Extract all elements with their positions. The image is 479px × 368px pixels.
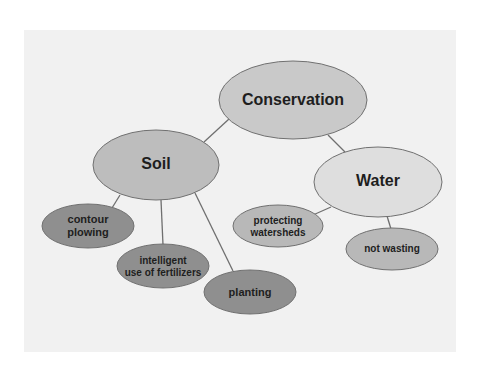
- label-fertilizers-line2: use of fertilizers: [125, 266, 202, 278]
- edge-soil-fertilizers: [161, 200, 163, 245]
- label-watersheds-line2: watersheds: [250, 226, 305, 238]
- label-water: Water: [356, 172, 400, 190]
- label-contour-plowing-line2: plowing: [67, 226, 109, 239]
- label-fertilizers: intelligent use of fertilizers: [125, 255, 202, 278]
- label-contour-plowing-line1: contour: [67, 213, 109, 226]
- label-planting: planting: [229, 286, 272, 299]
- label-conservation: Conservation: [242, 91, 344, 109]
- edge-water-notwasting: [387, 216, 391, 229]
- edge-conservation-soil: [204, 119, 229, 142]
- label-fertilizers-line1: intelligent: [125, 255, 202, 267]
- edge-water-watersheds: [313, 207, 331, 215]
- label-soil: Soil: [141, 155, 170, 173]
- edge-conservation-water: [328, 135, 345, 152]
- concept-map: [0, 0, 479, 368]
- label-contour-plowing: contour plowing: [67, 213, 109, 238]
- edge-soil-contour: [112, 195, 120, 208]
- label-watersheds: protecting watersheds: [250, 215, 305, 238]
- label-watersheds-line1: protecting: [250, 215, 305, 227]
- label-not-wasting: not wasting: [364, 243, 420, 255]
